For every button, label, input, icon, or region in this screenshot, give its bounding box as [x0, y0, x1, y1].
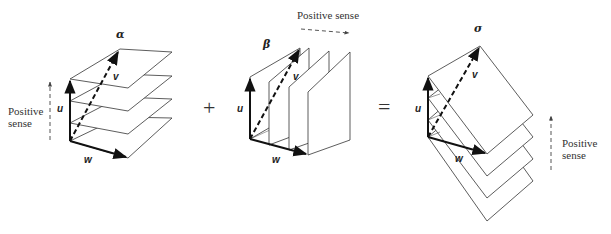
equals-operator: = [378, 94, 390, 119]
sense-label-line1: Positive [562, 137, 598, 149]
form-addition-diagram: α Positive sense u v w + β Positive sens… [0, 0, 611, 234]
u-label: u [237, 103, 243, 114]
sense-label-line2: sense [8, 117, 32, 129]
sense-label-line1: Positive [8, 105, 44, 117]
diagram-canvas: α Positive sense u v w + β Positive sens… [0, 0, 611, 234]
sense-label-line2: sense [562, 149, 586, 161]
w-label: w [84, 154, 93, 165]
sigma-planes [428, 46, 533, 221]
figure-beta: β Positive sense u v w [237, 9, 359, 165]
beta-label: β [262, 38, 271, 51]
positive-sense-arrow-icon [301, 29, 349, 33]
figure-alpha: α Positive sense u v w [8, 28, 172, 165]
figure-sigma: σ Positive sense u v w [415, 22, 598, 221]
plus-operator: + [203, 95, 215, 120]
alpha-planes [70, 49, 172, 158]
w-label: w [272, 154, 281, 165]
sigma-label: σ [474, 22, 483, 35]
sense-label: Positive sense [297, 9, 359, 21]
u-label: u [415, 103, 421, 114]
beta-planes [250, 48, 350, 155]
alpha-label: α [116, 28, 125, 41]
w-label: w [455, 153, 464, 164]
u-label: u [57, 103, 63, 114]
